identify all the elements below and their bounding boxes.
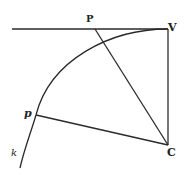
geometry-diagram: P V p C k [0,0,191,177]
segment-pC [36,115,168,145]
label-k: k [11,148,17,158]
label-p: p [24,108,32,119]
label-V: V [168,22,177,33]
label-C: C [167,147,176,158]
label-P: P [86,14,94,24]
curve-k [20,29,168,168]
segment-PC [95,29,168,145]
diagram-lines [0,0,191,177]
